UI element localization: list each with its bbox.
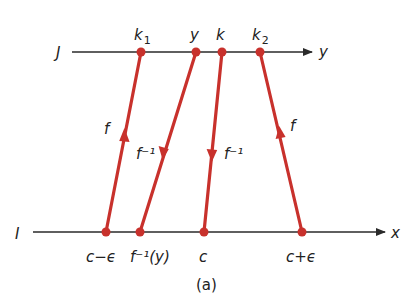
bottom-point-labels: c−ϵ f⁻¹(y) c c+ϵ [86,248,316,266]
function-inverse-diagram: J y I x f f⁻¹ f⁻¹ f [0,0,417,306]
point-c-minus-eps [102,228,111,237]
axis-y-label: y [318,43,329,61]
point-c-plus-eps [298,228,307,237]
label-k: k [216,26,226,44]
label-finv-y: f⁻¹(y) [130,248,170,266]
map-label-finv-y: f⁻¹ [136,145,155,163]
point-c [200,228,209,237]
map-line-f-right [260,52,302,232]
label-k1: k1 [134,26,151,47]
label-c-minus-eps: c−ϵ [86,248,116,266]
point-k1 [137,48,146,57]
map-line-finv-c [204,52,222,232]
figure-caption: (a) [196,276,217,294]
label-y: y [189,26,200,44]
point-y [192,48,201,57]
axis-J-label: J [53,44,60,62]
axis-J: J y [53,43,329,62]
point-k [218,48,227,57]
arrow-down-icon [207,149,218,162]
map-label-f-left: f [104,120,112,138]
map-label-f-right: f [290,117,298,135]
map-line-finv-y [140,52,196,232]
map-line-f-left [106,52,141,232]
mapping-labels: f f⁻¹ f⁻¹ f [104,117,298,163]
top-point-labels: k1 y k k2 [134,26,269,47]
label-c-plus-eps: c+ϵ [286,248,316,266]
label-c: c [199,248,208,266]
point-finv-y [136,228,145,237]
mapping-lines [106,52,302,232]
point-k2 [256,48,265,57]
label-k2: k2 [252,26,269,47]
arrow-up-icon [119,128,129,142]
axis-I-label: I [15,225,20,243]
map-label-finv-c: f⁻¹ [224,145,243,163]
axis-x-label: x [390,224,400,242]
